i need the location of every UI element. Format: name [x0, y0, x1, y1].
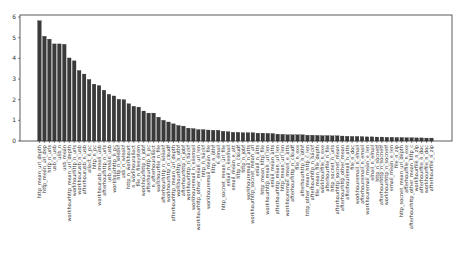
y-tick-label: 1 [12, 116, 16, 123]
bar [92, 84, 96, 141]
bar [405, 138, 409, 141]
y-axis: 0123456 [12, 13, 20, 144]
bar [172, 124, 176, 141]
bar [38, 21, 42, 141]
bar [390, 137, 394, 141]
bar [430, 138, 434, 141]
y-tick-label: 2 [12, 96, 16, 103]
bar [97, 86, 101, 141]
bar [301, 135, 305, 141]
y-tick-label: 5 [12, 34, 16, 41]
bar [192, 129, 196, 141]
bar [137, 107, 141, 141]
bar [187, 128, 191, 141]
bar [236, 132, 240, 141]
bar [231, 132, 235, 141]
bar [112, 96, 116, 141]
bar [311, 135, 315, 141]
bar [241, 133, 245, 141]
bar [58, 44, 62, 141]
bar [316, 135, 320, 141]
bar [326, 136, 330, 141]
bar [77, 71, 81, 141]
bar [271, 134, 275, 141]
y-tick-label: 0 [12, 137, 16, 144]
bar [72, 61, 76, 141]
bar [415, 138, 419, 141]
bar [206, 130, 210, 141]
bar-chart: 0123456 http_mean_url_depthhttp_mean_url… [0, 0, 467, 278]
bar [87, 79, 91, 141]
y-tick-label: 3 [12, 75, 16, 82]
bar [221, 131, 225, 141]
bar [53, 44, 57, 141]
bar [286, 135, 290, 141]
bar [117, 99, 121, 141]
bar [335, 136, 339, 141]
y-tick-label: 6 [12, 13, 16, 20]
bar [216, 130, 220, 141]
bar [251, 133, 255, 141]
bar [410, 138, 414, 141]
bar [330, 136, 334, 141]
bar [400, 137, 404, 141]
bar [261, 133, 265, 141]
bar [340, 136, 344, 141]
bar [420, 138, 424, 141]
bar [306, 135, 310, 141]
bar [276, 134, 280, 141]
bar [177, 126, 181, 141]
bar [132, 106, 136, 141]
bar [182, 126, 186, 141]
bars-group [38, 21, 434, 141]
x-tick-label: afterhourfile_n_zip [428, 145, 435, 191]
bar [365, 137, 369, 141]
y-tick-label: 4 [12, 54, 16, 61]
bar [296, 135, 300, 141]
bar [385, 137, 389, 141]
bar [162, 120, 166, 141]
bar [43, 36, 47, 141]
bar [281, 134, 285, 141]
bar [147, 113, 151, 141]
bar [226, 132, 230, 141]
bar [266, 133, 270, 141]
bar [67, 58, 71, 141]
bar [291, 135, 295, 141]
bar [345, 136, 349, 141]
bar [360, 137, 364, 141]
bar [425, 138, 429, 141]
bar [380, 137, 384, 141]
x-axis: http_mean_url_depthhttp_mean_url_dephttp… [36, 141, 435, 230]
bar [167, 122, 171, 141]
bar [157, 117, 161, 141]
bar [102, 90, 106, 141]
bar [246, 133, 250, 141]
bar [107, 94, 111, 141]
bar [355, 136, 359, 141]
bar [82, 74, 86, 141]
bar [152, 113, 156, 141]
bar [127, 104, 131, 141]
bar [395, 137, 399, 141]
bar [321, 136, 325, 141]
bar [48, 39, 52, 141]
bar [256, 133, 260, 141]
bar [211, 130, 215, 141]
bar [196, 130, 200, 141]
bar [142, 111, 146, 141]
bar [370, 137, 374, 141]
bar [375, 137, 379, 141]
bar [63, 44, 67, 141]
bar [201, 130, 205, 141]
bar [122, 100, 126, 141]
bar [350, 136, 354, 141]
